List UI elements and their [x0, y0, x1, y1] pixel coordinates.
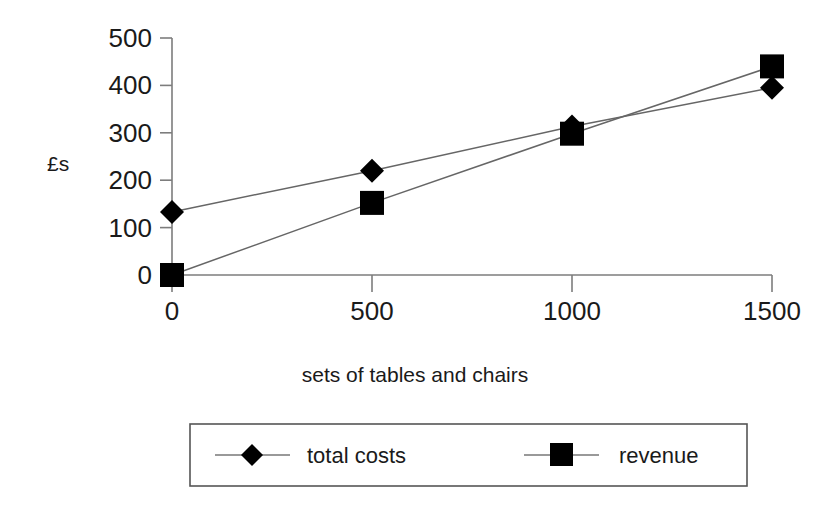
y-axis-title: £s	[47, 152, 69, 175]
total-costs-point-500	[360, 159, 384, 183]
x-tick-label-1500: 1500	[743, 296, 801, 326]
y-tick-label-400: 400	[109, 70, 152, 100]
axis-group	[160, 38, 772, 292]
total-costs-point-0	[160, 200, 184, 224]
y-tick-label-500: 500	[109, 23, 152, 53]
y-tick-labels: 500 400 300 200 100 0	[109, 23, 152, 290]
revenue-line	[172, 66, 772, 275]
y-tick-label-300: 300	[109, 118, 152, 148]
revenue-point-1000	[560, 122, 584, 146]
legend-label-total-costs: total costs	[307, 443, 406, 468]
y-tick-label-200: 200	[109, 165, 152, 195]
legend-label-revenue: revenue	[619, 443, 699, 468]
total-costs-line	[172, 88, 772, 212]
axis-lines	[172, 38, 772, 275]
chart-container: 500 400 300 200 100 0 0 500 1000 1500 £s…	[0, 0, 823, 515]
series-revenue	[160, 54, 784, 287]
revenue-point-500	[360, 191, 384, 215]
revenue-point-0	[160, 263, 184, 287]
total-costs-point-1500	[760, 76, 784, 100]
line-chart: 500 400 300 200 100 0 0 500 1000 1500 £s…	[0, 0, 823, 515]
x-tick-label-1000: 1000	[543, 296, 601, 326]
revenue-point-1500	[760, 54, 784, 78]
x-tick-label-500: 500	[350, 296, 393, 326]
chart-legend: total costs revenue	[190, 424, 747, 486]
x-axis-title: sets of tables and chairs	[302, 363, 528, 386]
y-tick-label-0: 0	[138, 260, 152, 290]
x-tick-label-0: 0	[165, 296, 179, 326]
series-total-costs	[160, 76, 784, 224]
square-marker-icon	[550, 443, 573, 466]
x-tick-labels: 0 500 1000 1500	[165, 296, 801, 326]
y-tick-label-100: 100	[109, 213, 152, 243]
